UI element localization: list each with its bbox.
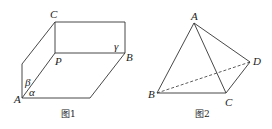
edge-ac — [194, 23, 226, 93]
figure-1: C B P A α β γ 图1 — [13, 8, 133, 119]
caption-figure-2: 图2 — [195, 109, 210, 119]
label-b: B — [148, 88, 155, 100]
caption-figure-1: 图1 — [61, 109, 76, 119]
label-a: A — [13, 93, 21, 105]
edge-ad — [194, 23, 250, 62]
diagram-canvas: C B P A α β γ 图1 A B C D 图2 — [0, 0, 272, 129]
label-a: A — [190, 10, 198, 22]
edge-cd — [226, 62, 250, 93]
label-c: C — [50, 8, 58, 20]
label-gamma: γ — [114, 40, 119, 52]
label-c: C — [225, 96, 233, 108]
label-p: P — [54, 55, 62, 67]
label-b: B — [126, 51, 133, 63]
figure-2: A B C D 图2 — [148, 10, 261, 119]
label-d: D — [252, 55, 261, 67]
edge-bottom-b — [90, 53, 125, 98]
edge-ab — [157, 23, 194, 93]
label-beta: β — [24, 76, 31, 88]
edge-c-left — [22, 22, 55, 64]
